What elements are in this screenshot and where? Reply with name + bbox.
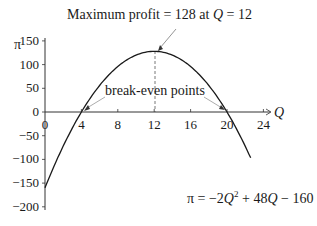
x-tick-label: 24 <box>257 117 271 132</box>
y-tick-label: 0 <box>33 104 40 119</box>
equation-label: π = −2Q2 + 48Q − 160 <box>187 189 313 206</box>
max-profit-leader-line <box>160 29 176 48</box>
y-tick-label: −200 <box>12 199 39 214</box>
y-tick-label: −100 <box>12 151 39 166</box>
x-tick-label: 0 <box>42 117 49 132</box>
x-tick-label: 8 <box>115 117 122 132</box>
y-tick-label: 50 <box>26 80 39 95</box>
max-arrowhead-icon <box>158 45 163 51</box>
y-tick-label: 150 <box>20 33 40 48</box>
break-even-label: break-even points <box>105 83 205 98</box>
x-axis-label: Q <box>274 105 284 120</box>
y-ticks: 150100500−50−100−150−200 <box>12 33 45 214</box>
y-axis-label: π <box>14 37 21 52</box>
x-tick-label: 16 <box>184 117 198 132</box>
chart-svg: 150100500−50−100−150−200 04812162024 π Q… <box>0 0 317 226</box>
y-tick-label: −50 <box>19 128 39 143</box>
max-profit-annotation: Maximum profit = 128 at Q = 12 <box>67 7 252 22</box>
y-tick-label: −150 <box>12 175 39 190</box>
break-even-leader-right <box>204 97 222 108</box>
profit-function-chart: 150100500−50−100−150−200 04812162024 π Q… <box>0 0 317 226</box>
y-tick-label: 100 <box>20 57 40 72</box>
x-tick-label: 4 <box>78 117 85 132</box>
x-tick-label: 12 <box>148 117 161 132</box>
